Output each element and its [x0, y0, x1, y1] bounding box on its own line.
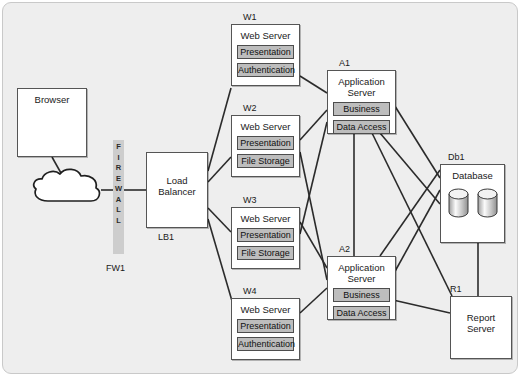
load-balancer-tag: LB1	[158, 232, 174, 242]
node-database-db1[interactable]: Database	[440, 164, 505, 243]
firewall-letter-4: W	[115, 184, 122, 195]
db1-title: Database	[441, 165, 504, 181]
edge-a2-r1	[393, 300, 450, 313]
browser-title: Browser	[18, 89, 86, 105]
w1-title: Web Server	[232, 25, 299, 41]
node-firewall[interactable]: F I R E W A L L	[113, 140, 124, 254]
w4-component-authentication[interactable]: Authentication	[237, 337, 294, 351]
a2-component-business[interactable]: Business	[333, 288, 390, 302]
w2-title: Web Server	[232, 116, 299, 132]
edge-w4-a2	[300, 288, 327, 313]
w3-tag: W3	[243, 195, 257, 205]
firewall-letter-0: F	[116, 142, 121, 153]
node-web-server-w1[interactable]: Web Server Presentation Authentication	[231, 24, 300, 86]
w2-tag: W2	[243, 103, 257, 113]
w3-component-presentation[interactable]: Presentation	[237, 228, 294, 242]
r1-title: Report Server	[451, 297, 511, 334]
w2-component-presentation[interactable]: Presentation	[237, 136, 294, 150]
r1-tag: R1	[450, 284, 462, 294]
w3-title: Web Server	[232, 208, 299, 224]
node-application-server-a2[interactable]: Application Server Business Data Access	[327, 256, 396, 320]
w1-component-presentation[interactable]: Presentation	[237, 45, 294, 59]
a2-component-data-access[interactable]: Data Access	[333, 306, 390, 320]
load-balancer-title: Load Balancer	[147, 153, 207, 197]
w1-tag: W1	[243, 12, 257, 22]
firewall-letter-6: L	[116, 205, 121, 216]
a1-tag: A1	[339, 58, 350, 68]
w3-component-file-storage[interactable]: File Storage	[237, 246, 294, 260]
w4-component-presentation[interactable]: Presentation	[237, 319, 294, 333]
database-cylinder-icon-2	[477, 188, 498, 218]
firewall-letter-5: A	[116, 195, 121, 206]
edge-a1-db1	[393, 103, 440, 178]
node-web-server-w2[interactable]: Web Server Presentation File Storage	[231, 115, 300, 177]
node-cloud[interactable]	[28, 167, 104, 209]
node-report-server-r1[interactable]: Report Server	[450, 296, 512, 359]
w4-title: Web Server	[232, 299, 299, 315]
database-cylinders	[441, 188, 504, 218]
w4-tag: W4	[243, 286, 257, 296]
a2-tag: A2	[339, 244, 350, 254]
node-load-balancer[interactable]: Load Balancer	[146, 152, 208, 228]
a2-title: Application Server	[328, 257, 395, 284]
w2-component-file-storage[interactable]: File Storage	[237, 154, 294, 168]
node-application-server-a1[interactable]: Application Server Business Data Access	[327, 70, 396, 134]
firewall-letter-7: L	[116, 216, 121, 227]
node-web-server-w4[interactable]: Web Server Presentation Authentication	[231, 298, 300, 360]
firewall-tag: FW1	[106, 263, 125, 273]
a1-component-data-access[interactable]: Data Access	[333, 120, 390, 134]
architecture-diagram: Browser F I R E W A L L FW1 Load Balance…	[0, 0, 522, 378]
edge-lb-w4	[208, 219, 232, 301]
db1-tag: Db1	[448, 152, 465, 162]
firewall-letter-2: R	[116, 163, 121, 174]
node-browser[interactable]: Browser	[17, 88, 87, 157]
node-web-server-w3[interactable]: Web Server Presentation File Storage	[231, 207, 300, 269]
edge-w1-a1	[300, 76, 327, 93]
firewall-letter-1: I	[117, 153, 119, 164]
w1-component-authentication[interactable]: Authentication	[237, 63, 294, 77]
cloud-icon	[28, 167, 104, 209]
a1-component-business[interactable]: Business	[333, 102, 390, 116]
edge-lb-w1	[208, 88, 231, 171]
database-cylinder-icon	[448, 188, 469, 218]
firewall-letter-3: E	[116, 174, 121, 185]
a1-title: Application Server	[328, 71, 395, 98]
